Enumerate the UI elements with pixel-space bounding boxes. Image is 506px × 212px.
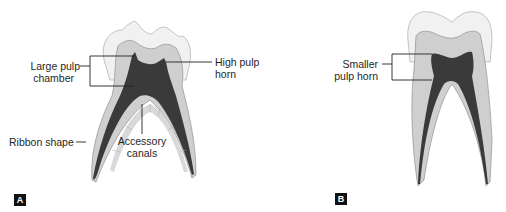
label-ribbon-shape: Ribbon shape: [9, 136, 74, 148]
label-line-1: Smaller: [322, 58, 378, 70]
panel-tag-a: A: [14, 194, 26, 206]
label-smaller-pulp-horn: Smaller pulp horn: [322, 58, 378, 82]
label-line-1: Accessory: [114, 135, 170, 147]
label-high-pulp-horn: High pulp horn: [215, 56, 259, 80]
label-line-2: pulp horn: [322, 70, 378, 82]
panel-tag-b: B: [335, 193, 347, 205]
label-line-2: horn: [215, 68, 259, 80]
label-line-2: canals: [114, 147, 170, 159]
label-accessory-canals: Accessory canals: [114, 135, 170, 159]
tooth-b: [408, 12, 492, 186]
tooth-diagram-svg: [0, 0, 506, 212]
label-line-1: High pulp: [215, 56, 259, 68]
label-large-pulp-chamber: Large pulp chamber: [22, 60, 80, 84]
label-line-2: chamber: [22, 72, 80, 84]
label-line-1: Large pulp: [22, 60, 80, 72]
